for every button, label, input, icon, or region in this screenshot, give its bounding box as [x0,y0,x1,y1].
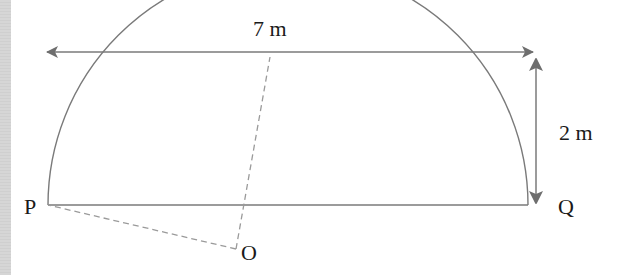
point-p-label: P [24,194,36,219]
radius-op [48,205,236,249]
radius-o-to-arc [236,57,270,249]
arch-curve [48,0,528,205]
height-label: 2 m [559,120,593,145]
point-o-label: O [241,240,257,265]
width-label: 7 m [253,16,287,41]
arch-diagram: 7 m 2 m P Q O [0,0,620,275]
point-q-label: Q [558,194,574,219]
